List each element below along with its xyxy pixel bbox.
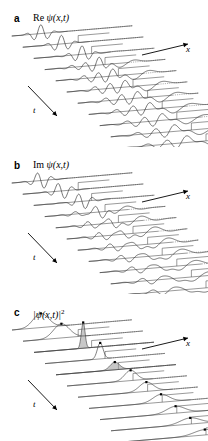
panel-a: a Re ψ(x,t) x t [0, 0, 208, 147]
panel-b-plot [0, 147, 208, 294]
wave-packet-figure: a Re ψ(x,t) x t b Im ψ(x,t) x t c |ψ(x,t… [0, 0, 208, 441]
panel-b: b Im ψ(x,t) x t [0, 147, 208, 294]
panel-c-plot [0, 294, 208, 441]
panel-a-plot [0, 0, 208, 147]
panel-c: c |ψ(x,t)|2 x t [0, 294, 208, 441]
